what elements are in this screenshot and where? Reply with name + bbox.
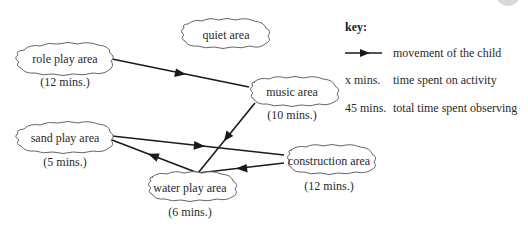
corner-circle-decoration (496, 0, 520, 6)
key-item-symbol: 45 mins. (345, 101, 386, 115)
area-time: (5 mins.) (43, 155, 86, 169)
key-item-symbol: x mins. (345, 73, 380, 87)
area-sand-play: sand play area (5 mins.) (16, 122, 114, 170)
area-label: construction area (288, 154, 371, 168)
area-water-play: water play area (6 mins.) (149, 172, 237, 220)
key-item-description: time spent on activity (393, 73, 497, 87)
area-time: (12 mins.) (304, 179, 353, 193)
area-construction: construction area (12 mins.) (288, 145, 376, 194)
area-label: quiet area (203, 28, 251, 42)
key-title: key: (345, 20, 367, 34)
arrow-icon (236, 164, 248, 173)
area-label: music area (266, 85, 318, 99)
area-label: role play area (32, 52, 98, 66)
area-role-play: role play area (12 mins.) (16, 43, 114, 90)
movement-lines (112, 59, 284, 173)
area-time: (10 mins.) (267, 108, 316, 122)
area-time: (6 mins.) (168, 205, 211, 219)
area-label: water play area (153, 181, 227, 195)
key-legend: key: movement of the child x mins. time … (345, 20, 517, 115)
area-label: sand play area (31, 131, 100, 145)
key-item-description: movement of the child (393, 46, 501, 60)
key-item-description: total time spent observing (393, 101, 517, 115)
area-quiet: quiet area (182, 19, 270, 49)
arrow-icon (148, 154, 160, 162)
arrow-icon (360, 49, 370, 57)
area-music: music area (10 mins.) (251, 77, 339, 123)
area-time: (12 mins.) (40, 75, 89, 89)
arrow-icon (174, 69, 186, 78)
movement-diagram: role play area (12 mins.) quiet area mus… (0, 0, 528, 229)
